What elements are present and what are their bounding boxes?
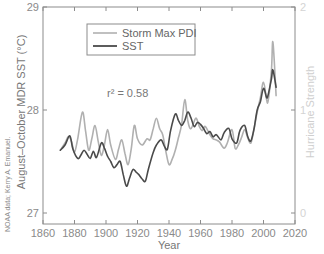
- y-axis-title-left: August–October MDR SST (°C): [15, 35, 27, 190]
- x-tick-label: 1960: [188, 227, 212, 239]
- y2-tick-label: 2: [300, 1, 306, 13]
- x-tick-label: 2000: [251, 227, 275, 239]
- y-tick-label: 27: [27, 207, 39, 219]
- legend-label-sst: SST: [122, 40, 144, 52]
- x-tick-label: 1920: [125, 227, 149, 239]
- x-tick-label: 1940: [157, 227, 181, 239]
- correlation-annotation: r² = 0.58: [107, 87, 148, 99]
- y2-tick-label: 0: [300, 207, 306, 219]
- x-tick-label: 2020: [283, 227, 307, 239]
- y-tick-label: 28: [27, 104, 39, 116]
- x-tick-label: 1980: [220, 227, 244, 239]
- legend-label-storm-max-pdi: Storm Max PDI: [122, 27, 197, 39]
- legend: Storm Max PDI SST: [87, 24, 197, 55]
- y-tick-label: 29: [27, 1, 39, 13]
- x-axis-title: Year: [158, 239, 181, 251]
- y-axis-title-right: Hurricane Strength: [304, 66, 316, 158]
- chart-canvas: 186018801900192019401960198020002020 272…: [0, 0, 324, 254]
- y-axis-left: 272829: [27, 1, 47, 219]
- x-tick-label: 1860: [31, 227, 55, 239]
- x-tick-label: 1880: [62, 227, 86, 239]
- series-sst: [60, 70, 276, 187]
- source-credit: NOAA data; Kerry A. Emanuel.: [4, 137, 12, 232]
- x-tick-label: 1900: [94, 227, 118, 239]
